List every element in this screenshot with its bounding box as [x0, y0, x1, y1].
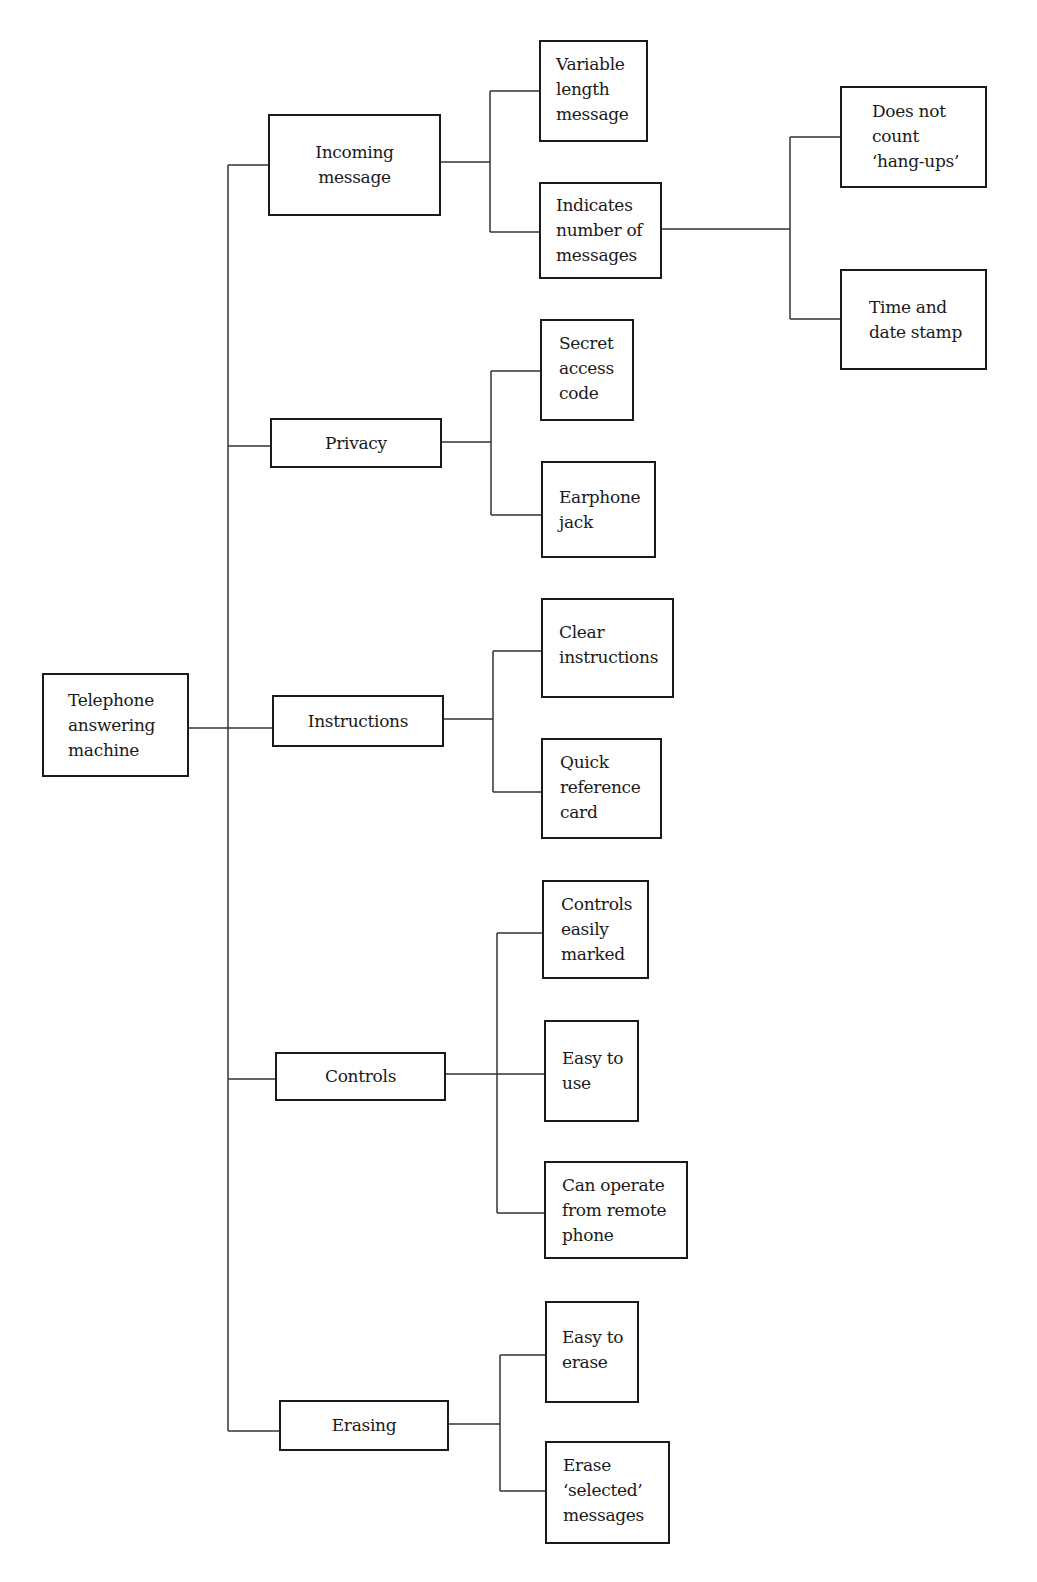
node-label-line: Controls [561, 892, 632, 917]
feature-tree-diagram: Telephone answering machine Incoming mes… [0, 0, 1037, 1582]
node-label-line: message [318, 165, 391, 190]
node-label-line: machine [68, 738, 139, 763]
node-label-line: Telephone [68, 688, 154, 713]
node-label-line: Erasing [332, 1413, 397, 1438]
node-incoming-message: Incoming message [268, 114, 441, 216]
node-label-line: Instructions [308, 709, 408, 734]
node-controls: Controls [275, 1052, 446, 1101]
node-label-line: Can operate [562, 1173, 665, 1198]
node-label-line: number of [556, 218, 642, 243]
node-label-line: instructions [559, 645, 658, 670]
node-label-line: Indicates [556, 193, 633, 218]
node-label-line: from remote [562, 1198, 666, 1223]
node-label-line: Clear [559, 620, 604, 645]
node-secret-access-code: Secret access code [540, 319, 634, 421]
node-easy-to-erase: Easy to erase [545, 1301, 639, 1403]
node-label-line: message [556, 102, 629, 127]
node-label-line: length [556, 77, 609, 102]
node-time-and-date-stamp: Time and date stamp [840, 269, 987, 370]
node-label-line: ‘selected’ [563, 1478, 642, 1503]
node-label-line: access [559, 356, 614, 381]
node-label-line: use [562, 1071, 591, 1096]
node-label-line: Controls [325, 1064, 396, 1089]
node-easy-to-use: Easy to use [544, 1020, 639, 1122]
node-label-line: phone [562, 1223, 614, 1248]
node-label-line: marked [561, 942, 625, 967]
node-variable-length-message: Variable length message [539, 40, 648, 142]
node-telephone-answering-machine: Telephone answering machine [42, 673, 189, 777]
node-label-line: answering [68, 713, 155, 738]
node-can-operate-from-remote-phone: Can operate from remote phone [544, 1161, 688, 1259]
node-quick-reference-card: Quick reference card [541, 738, 662, 839]
node-label-line: Incoming [315, 140, 393, 165]
node-label-line: Privacy [325, 431, 387, 456]
node-label-line: ‘hang-ups’ [872, 149, 959, 174]
node-label-line: messages [556, 243, 637, 268]
node-label-line: code [559, 381, 599, 406]
node-indicates-number-of-messages: Indicates number of messages [539, 182, 662, 279]
node-label-line: Variable [556, 52, 625, 77]
node-label-line: Secret [559, 331, 613, 356]
node-label-line: count [872, 124, 919, 149]
node-label-line: Quick [560, 750, 609, 775]
node-label-line: jack [559, 510, 593, 535]
node-controls-easily-marked: Controls easily marked [542, 880, 649, 979]
node-label-line: Easy to [562, 1046, 623, 1071]
node-privacy: Privacy [270, 418, 442, 468]
node-label-line: reference [560, 775, 641, 800]
node-label-line: Time and [869, 295, 947, 320]
node-erase-selected-messages: Erase ‘selected’ messages [545, 1441, 670, 1544]
node-instructions: Instructions [272, 695, 444, 747]
node-label-line: Easy to [562, 1325, 623, 1350]
node-clear-instructions: Clear instructions [541, 598, 674, 698]
node-earphone-jack: Earphone jack [541, 461, 656, 558]
node-label-line: Earphone [559, 485, 640, 510]
node-label-line: erase [562, 1350, 608, 1375]
connector-lines [0, 0, 1037, 1582]
node-label-line: messages [563, 1503, 644, 1528]
node-label-line: date stamp [869, 320, 962, 345]
node-label-line: Erase [563, 1453, 611, 1478]
node-label-line: easily [561, 917, 609, 942]
node-label-line: card [560, 800, 597, 825]
node-does-not-count-hang-ups: Does not count ‘hang-ups’ [840, 86, 987, 188]
node-label-line: Does not [872, 99, 946, 124]
node-erasing: Erasing [279, 1400, 449, 1451]
